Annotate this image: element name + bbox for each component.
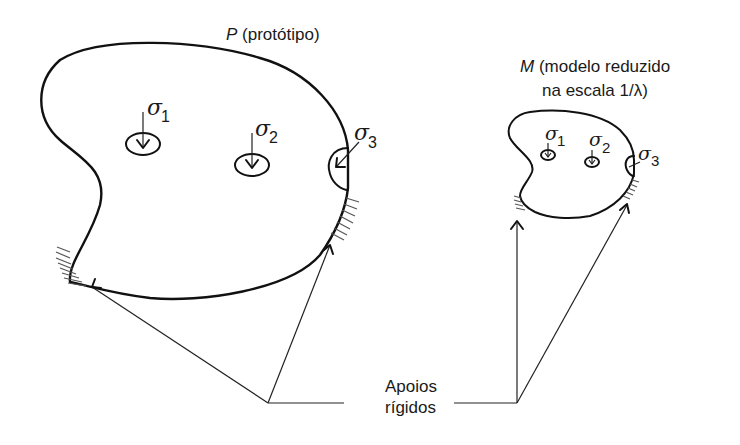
model-sigma2-element: σ 2 xyxy=(585,128,610,167)
model-sigma3-symbol: σ xyxy=(638,142,652,164)
prototype-sigma1-element: σ 1 xyxy=(126,95,170,155)
model-group: σ 1 σ 2 σ 3 M (modelo reduzido na escala… xyxy=(509,57,671,218)
support-leader-lines xyxy=(92,204,629,403)
model-label-line1: M (modelo reduzido xyxy=(520,57,670,76)
prototype-symbol: P xyxy=(226,25,238,44)
supports-label-line1: Apoios xyxy=(385,377,437,396)
prototype-label-text: (protótipo) xyxy=(237,25,319,44)
model-label-text: (modelo reduzido xyxy=(534,57,670,76)
model-sigma3-subscript: 3 xyxy=(651,152,659,169)
prototype-outline xyxy=(41,43,348,299)
prototype-label: P (protótipo) xyxy=(226,25,320,44)
model-sigma1-element: σ 1 xyxy=(541,122,565,160)
model-symbol: M xyxy=(520,57,535,76)
prototype-left-support-hatch xyxy=(56,247,86,286)
model-sigma2-symbol: σ xyxy=(589,128,603,150)
prototype-sigma1-subscript: 1 xyxy=(161,108,170,125)
model-sigma2-subscript: 2 xyxy=(602,139,610,156)
prototype-sigma2-subscript: 2 xyxy=(269,129,278,146)
supports-label-line2: rígidos xyxy=(385,398,436,417)
prototype-group: σ 1 σ 2 σ 3 P (protótipo) xyxy=(41,25,377,299)
prototype-sigma3-subscript: 3 xyxy=(368,134,377,151)
model-outline xyxy=(509,111,634,218)
model-sigma1-subscript: 1 xyxy=(557,132,565,149)
model-label-line2: na escala 1/λ) xyxy=(542,81,648,100)
prototype-sigma3-element: σ 3 xyxy=(329,120,377,190)
prototype-sigma2-element: σ 2 xyxy=(235,116,278,176)
diagram-canvas: σ 1 σ 2 σ 3 P (protótipo) xyxy=(0,0,740,445)
prototype-right-support-hatch xyxy=(331,198,359,240)
